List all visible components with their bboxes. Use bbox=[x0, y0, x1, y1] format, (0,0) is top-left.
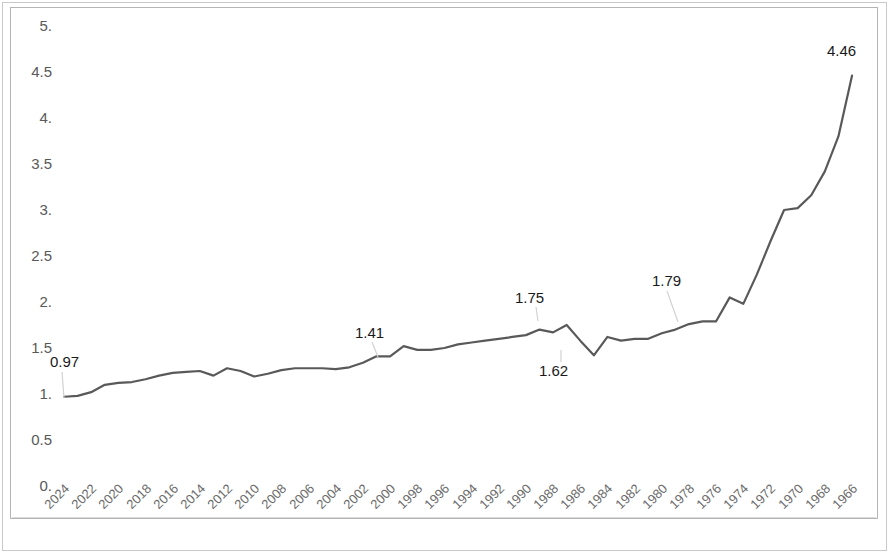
y-tick-label: 4.5 bbox=[18, 64, 52, 79]
y-tick-label: 5. bbox=[18, 18, 52, 33]
data-point-label: 1.75 bbox=[515, 290, 544, 305]
label-leader-line bbox=[62, 372, 64, 398]
chart-figure: 5.4.54.3.53.2.52.1.51.0.50. 202420222020… bbox=[0, 0, 891, 555]
data-point-label: 1.62 bbox=[539, 363, 568, 378]
y-tick-label: 4. bbox=[18, 110, 52, 125]
y-tick-label: 2.5 bbox=[18, 248, 52, 263]
y-tick-label: 0. bbox=[18, 478, 52, 493]
data-point-label: 0.97 bbox=[50, 354, 79, 369]
label-leader-line bbox=[667, 291, 678, 322]
label-leader-line bbox=[372, 342, 378, 357]
y-tick-label: 1.5 bbox=[18, 340, 52, 355]
data-line-group bbox=[64, 76, 852, 397]
line-chart-canvas bbox=[0, 0, 891, 555]
y-tick-label: 0.5 bbox=[18, 432, 52, 447]
data-point-label: 1.41 bbox=[355, 325, 384, 340]
y-tick-label: 2. bbox=[18, 294, 52, 309]
data-point-label: 1.79 bbox=[652, 273, 681, 288]
data-series-line bbox=[64, 76, 852, 397]
y-tick-label: 1. bbox=[18, 386, 52, 401]
y-tick-label: 3.5 bbox=[18, 156, 52, 171]
data-point-label: 4.46 bbox=[827, 43, 856, 58]
label-leader-line bbox=[536, 307, 538, 321]
y-tick-label: 3. bbox=[18, 202, 52, 217]
leader-line-group bbox=[62, 291, 678, 398]
